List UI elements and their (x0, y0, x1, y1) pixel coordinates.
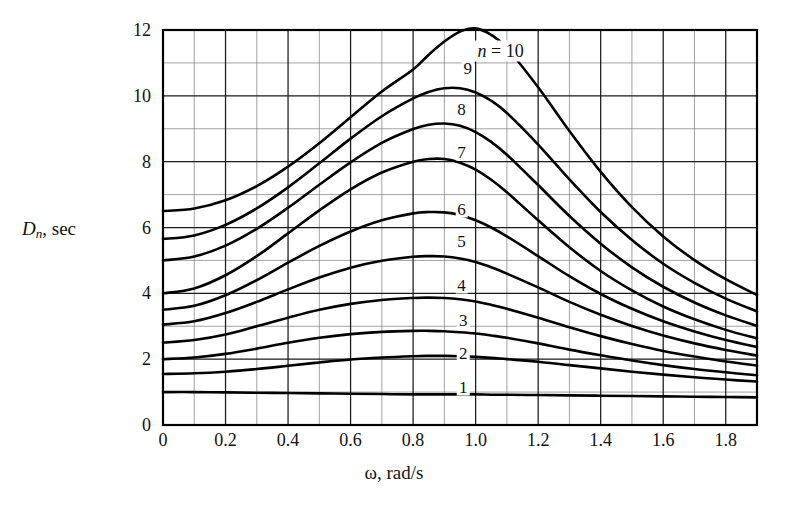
curve-label-8: 8 (455, 101, 468, 118)
curve-label-2: 2 (457, 344, 470, 361)
curve-label-9: 9 (462, 59, 475, 76)
figure-container: Dn, sec ω, rad/s 00.20.40.60.81.01.21.41… (0, 0, 788, 508)
x-axis-tick-label: 0.6 (339, 430, 362, 451)
y-axis-tick-label: 12 (121, 20, 151, 41)
y-axis-tick-label: 6 (121, 217, 151, 238)
x-axis-tick-label: 0.8 (402, 430, 425, 451)
curve-label-6: 6 (455, 201, 468, 218)
x-axis-tick-label: 1.0 (464, 430, 487, 451)
y-axis-tick-label: 8 (121, 151, 151, 172)
x-axis-tick-label: 1.4 (589, 430, 612, 451)
y-axis-label-unit: , sec (42, 218, 76, 239)
y-axis-tick-label: 0 (121, 415, 151, 436)
x-axis-tick-label: 0 (159, 430, 168, 451)
series-annotation-n-equals-10: n = 10 (475, 41, 527, 62)
curve-label-3: 3 (457, 311, 470, 328)
x-axis-tick-label: 1.8 (714, 430, 737, 451)
x-axis-tick-label: 1.2 (527, 430, 550, 451)
x-axis-label: ω, rad/s (0, 462, 788, 484)
y-axis-tick-label: 10 (121, 85, 151, 106)
y-axis-tick-label: 4 (121, 283, 151, 304)
y-axis-label: Dn, sec (22, 218, 76, 242)
curve-n-5 (163, 256, 757, 355)
y-axis-tick-label: 2 (121, 349, 151, 370)
curve-label-1: 1 (457, 379, 470, 396)
x-axis-tick-label: 0.2 (214, 430, 237, 451)
curve-label-7: 7 (455, 143, 468, 160)
x-axis-tick-label: 0.4 (277, 430, 300, 451)
curve-label-5: 5 (455, 232, 468, 249)
y-axis-label-symbol: D (22, 218, 36, 239)
curve-label-4: 4 (455, 277, 468, 294)
x-axis-tick-label: 1.6 (652, 430, 675, 451)
